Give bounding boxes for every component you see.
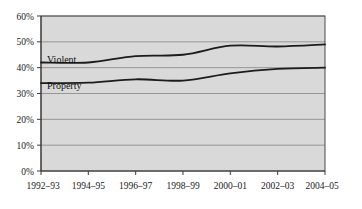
y-tick-label-30: 30% — [17, 89, 35, 99]
y-tick-label-10: 10% — [17, 141, 35, 151]
line-chart-figure: 60% 50% 40% 30% 20% 10% 0% 1992–93 1994–… — [0, 0, 362, 209]
y-tick-label-20: 20% — [17, 115, 35, 125]
x-tick-label-2004-05: 2004–05 — [305, 181, 339, 191]
series-inline-label-property: Property — [47, 80, 81, 91]
x-axis-tick-labels: 1992–93 1994–95 1996–97 1998–99 2000–01 … — [26, 181, 339, 191]
y-tick-label-50: 50% — [17, 37, 35, 47]
series-inline-label-violent: Violent — [47, 54, 77, 65]
y-tick-label-40: 40% — [17, 63, 35, 73]
x-tick-label-1998-99: 1998–99 — [166, 181, 200, 191]
y-tick-label-0: 0% — [21, 167, 34, 177]
x-tick-label-1994-95: 1994–95 — [72, 181, 106, 191]
x-tick-label-1992-93: 1992–93 — [26, 181, 60, 191]
y-tick-label-60: 60% — [17, 12, 35, 22]
x-tick-label-2000-01: 2000–01 — [214, 181, 248, 191]
x-tick-label-2002-03: 2002–03 — [261, 181, 295, 191]
x-tick-label-1996-97: 1996–97 — [119, 181, 153, 191]
chart-canvas: 60% 50% 40% 30% 20% 10% 0% 1992–93 1994–… — [0, 0, 362, 209]
